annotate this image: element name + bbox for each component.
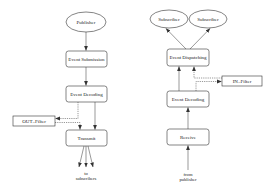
edge-decoding-to-infilter — [196, 82, 222, 92]
publisher-label: Publisher — [77, 20, 96, 25]
subscriber-side: Subscriber Subscriber Event Dispatching … — [150, 10, 262, 182]
event-dispatching-node: Event Dispatching — [167, 49, 209, 66]
edges-transmit-to-subscribers — [79, 146, 93, 167]
publisher-side: Publisher Event Submission Event Decodin… — [13, 12, 107, 181]
receive-label: Receive — [180, 135, 197, 140]
in-filter-node: IN–Filter — [222, 76, 262, 86]
event-submission-label: Event Submission — [68, 57, 105, 62]
receive-node: Receive — [167, 129, 209, 145]
event-dispatching-label: Event Dispatching — [169, 55, 207, 60]
edge-infilter-to-dispatching — [194, 67, 222, 79]
event-decoding-node-subscriber: Event Decoding — [167, 91, 209, 107]
subscriber-1-label: Subscriber — [158, 17, 180, 22]
transmit-node: Transmit — [66, 130, 107, 146]
pubsub-diagram: Publisher Event Submission Event Decodin… — [0, 0, 274, 189]
out-filter-label: OUT–Filter — [22, 119, 46, 124]
edge-dispatching-to-subscriber-1 — [166, 29, 186, 50]
event-decoding-node-publisher: Event Decoding — [66, 86, 107, 102]
out-filter-node: OUT–Filter — [13, 116, 55, 126]
subscriber-2-label: Subscriber — [197, 17, 219, 22]
from-publisher-label-line2: publisher — [179, 177, 197, 182]
in-filter-label: IN–Filter — [233, 79, 252, 84]
edge-decoding-to-outfilter — [56, 102, 79, 119]
event-decoding-label-publisher: Event Decoding — [70, 92, 103, 97]
publisher-node: Publisher — [66, 12, 106, 32]
to-subscribers-label-line2: subscribers — [76, 176, 97, 181]
edge-dispatching-to-subscriber-2 — [190, 29, 210, 50]
subscriber-node-1: Subscriber — [150, 10, 188, 28]
event-decoding-label-subscriber: Event Decoding — [172, 97, 205, 102]
subscriber-node-2: Subscriber — [189, 10, 227, 28]
edge-outfilter-to-transmit — [55, 123, 80, 130]
event-submission-node: Event Submission — [66, 51, 107, 67]
transmit-label: Transmit — [78, 136, 96, 141]
